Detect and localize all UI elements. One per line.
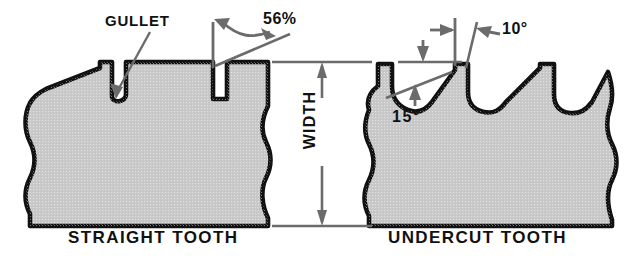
top-clearance-angled-reference-line <box>466 22 477 68</box>
top-clearance-arrowhead-right <box>476 26 492 38</box>
top-clearance-arrowhead-left <box>440 24 455 36</box>
caption-undercut-tooth: UNDERCUT TOOTH <box>388 228 567 248</box>
hook-angle-label: 15° <box>392 108 421 126</box>
hook-arrowhead-top <box>417 46 429 62</box>
caption-straight-tooth: STRAIGHT TOOTH <box>68 228 238 248</box>
figure-canvas: GULLET 56% 10° 15° WIDTH STRAIGHT TOOTH … <box>0 0 637 262</box>
gullet-label: GULLET <box>105 12 170 29</box>
undercut-blade-texture <box>358 55 623 235</box>
rake-percent-label: 56% <box>263 10 297 28</box>
width-arrowhead-down <box>317 210 327 226</box>
hook-arrowhead-bottom <box>409 84 421 100</box>
width-dimension-label: WIDTH <box>301 91 319 149</box>
top-clearance-angle-label: 10° <box>502 20 528 38</box>
width-arrowhead-up <box>317 62 327 78</box>
